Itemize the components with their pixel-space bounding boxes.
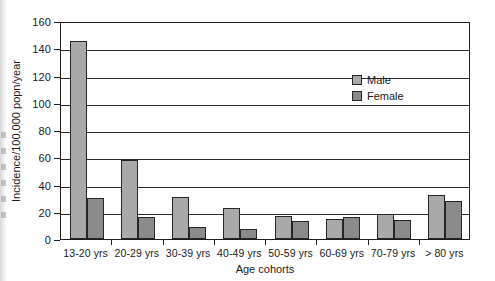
legend-label: Female — [367, 90, 404, 102]
x-tick-mark — [368, 240, 369, 245]
y-tick-mark — [54, 158, 60, 159]
y-axis-line — [60, 22, 61, 240]
x-axis-title: Age cohorts — [60, 263, 470, 276]
x-tick-label: 40-49 yrs — [217, 247, 262, 259]
bar-female--80-yrs — [445, 201, 462, 239]
legend-swatch-icon — [352, 91, 362, 101]
bar-female-50-59-yrs — [292, 221, 309, 239]
x-tick-label: 20-29 yrs — [115, 247, 160, 259]
x-tick-label: > 80 yrs — [425, 247, 463, 259]
x-tick-mark — [111, 240, 112, 245]
x-tick-mark — [265, 240, 266, 245]
bar-male-60-69-yrs — [326, 219, 343, 239]
y-tick-mark — [54, 213, 60, 214]
bar-male-70-79-yrs — [377, 214, 394, 239]
bar-female-13-20-yrs — [87, 198, 104, 239]
y-tick-mark — [54, 22, 60, 23]
bar-female-40-49-yrs — [240, 229, 257, 239]
gridline — [61, 105, 469, 106]
gridline — [61, 132, 469, 133]
bar-male-50-59-yrs — [275, 216, 292, 239]
y-tick-mark — [54, 49, 60, 50]
y-tick-label: 40 — [39, 180, 51, 191]
y-tick-label: 160 — [32, 17, 51, 28]
y-axis-title: Incidence/100,000 popn/year — [8, 22, 24, 240]
bar-male-20-29-yrs — [121, 160, 138, 239]
y-tick-label: 20 — [39, 207, 51, 218]
bar-female-20-29-yrs — [138, 217, 155, 239]
x-tick-mark — [214, 240, 215, 245]
bar-male-40-49-yrs — [223, 208, 240, 239]
x-tick-label: 70-79 yrs — [371, 247, 416, 259]
y-tick-mark — [54, 104, 60, 105]
x-tick-label: 50-59 yrs — [268, 247, 313, 259]
x-tick-label: 30-39 yrs — [166, 247, 211, 259]
legend-item-male: Male — [352, 72, 424, 87]
y-tick-label: 0 — [45, 235, 51, 246]
y-tick-label: 120 — [32, 71, 51, 82]
y-tick-label: 60 — [39, 153, 51, 164]
x-tick-mark — [316, 240, 317, 245]
plot-area — [60, 22, 470, 240]
y-tick-label: 80 — [39, 126, 51, 137]
x-tick-mark — [419, 240, 420, 245]
x-tick-mark — [163, 240, 164, 245]
bar-male-13-20-yrs — [70, 41, 87, 239]
bar-female-70-79-yrs — [394, 220, 411, 239]
y-tick-mark — [54, 131, 60, 132]
bar-male-30-39-yrs — [172, 197, 189, 239]
y-tick-mark — [54, 240, 60, 241]
bar-female-30-39-yrs — [189, 227, 206, 239]
legend-swatch-icon — [352, 75, 362, 85]
chart-legend: MaleFemale — [352, 72, 424, 104]
legend-item-female: Female — [352, 88, 424, 103]
legend-label: Male — [367, 74, 391, 86]
incidence-by-age-cohort-bar-chart: 020406080100120140160 Incidence/100,000 … — [0, 0, 495, 281]
y-tick-mark — [54, 77, 60, 78]
x-tick-label: 60-69 yrs — [320, 247, 365, 259]
x-tick-label: 13-20 yrs — [63, 247, 108, 259]
bar-male--80-yrs — [428, 195, 445, 239]
bar-female-60-69-yrs — [343, 217, 360, 239]
y-tick-label: 100 — [32, 98, 51, 109]
y-tick-label: 140 — [32, 44, 51, 55]
gridline — [61, 50, 469, 51]
y-tick-mark — [54, 186, 60, 187]
